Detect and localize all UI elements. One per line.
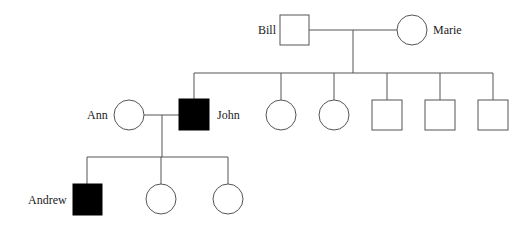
- individual-son-2: [425, 100, 455, 130]
- individual-son-3: [478, 100, 508, 130]
- individual-granddaughter-1: [146, 184, 176, 214]
- individual-marie-female: [397, 15, 427, 45]
- individual-bill-male: [280, 15, 309, 45]
- individual-son-1: [372, 100, 402, 130]
- individual-andrew-male-affected: [73, 184, 102, 215]
- individual-ann-female: [114, 100, 144, 130]
- pedigree-chart: Bill Marie Ann John Andrew: [0, 0, 530, 227]
- label-john: John: [217, 108, 240, 122]
- individual-daughter-1: [266, 100, 296, 130]
- label-andrew: Andrew: [28, 193, 67, 207]
- label-marie: Marie: [433, 23, 462, 37]
- individual-daughter-2: [319, 100, 349, 130]
- individual-granddaughter-2: [213, 184, 243, 214]
- label-ann: Ann: [87, 108, 108, 122]
- label-bill: Bill: [258, 23, 277, 37]
- individual-john-male-affected: [179, 99, 209, 130]
